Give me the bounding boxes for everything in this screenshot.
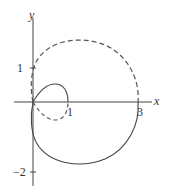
x-tick-label-3: 3: [137, 105, 143, 119]
dashed-outer-loop: [31, 40, 138, 102]
x-tick-label-1: 1: [67, 105, 73, 119]
y-axis-label: y: [28, 8, 35, 22]
x-axis-label: x: [153, 94, 160, 108]
solid-outer-loop: [31, 102, 138, 164]
solid-inner-loop: [33, 84, 68, 102]
polar-plot: y x 1 −2 1 3: [0, 0, 173, 194]
y-tick-label-neg2: −2: [13, 165, 26, 179]
y-tick-label-1: 1: [17, 61, 23, 75]
dashed-inner-loop: [33, 102, 68, 120]
